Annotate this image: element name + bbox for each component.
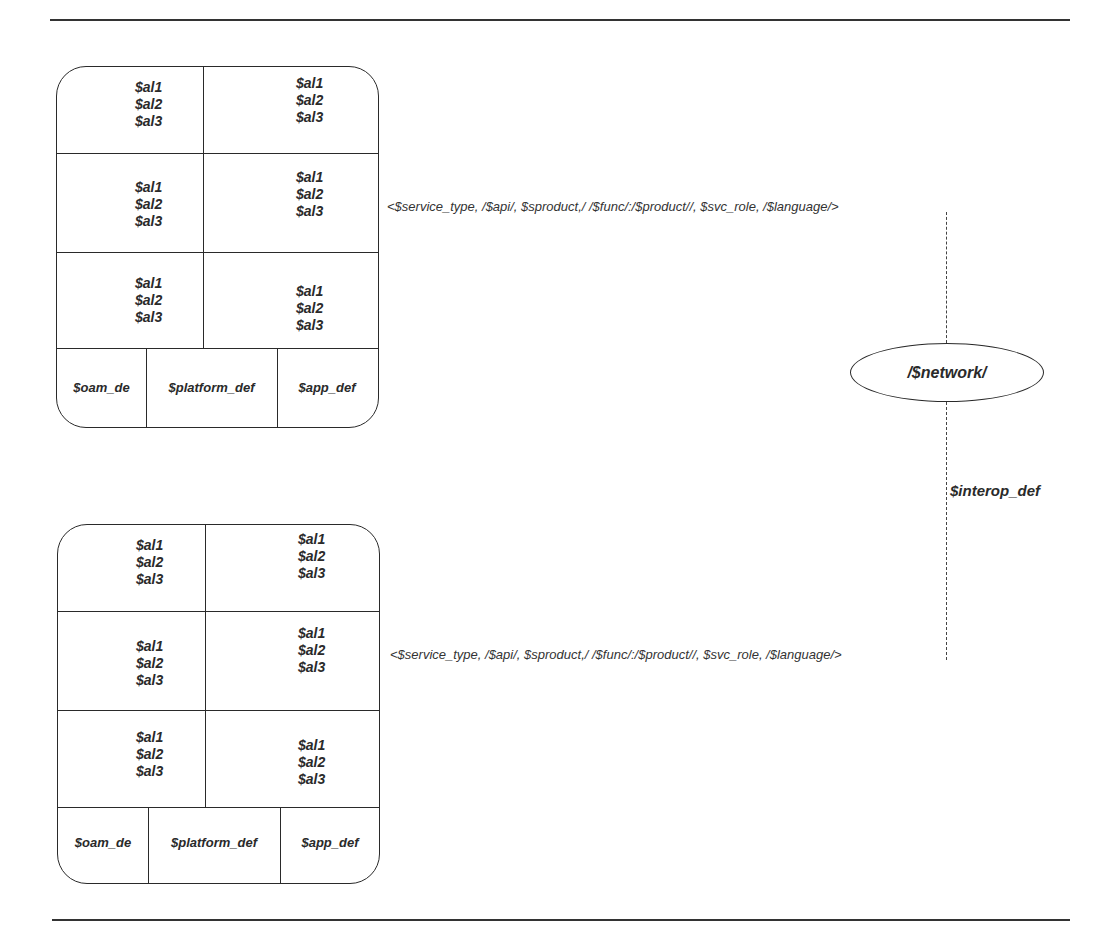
attribute-cell: $al1$al2$al3 xyxy=(136,537,163,588)
attribute-cell: $al1$al2$al3 xyxy=(296,283,323,334)
attribute-cell: $al1$al2$al3 xyxy=(135,79,162,130)
bottom-rule xyxy=(52,919,1070,921)
bottom-component-box: $al1$al2$al3 $al1$al2$al3 $al1$al2$al3 $… xyxy=(57,524,380,884)
attribute-cell: $al1$al2$al3 xyxy=(298,737,325,788)
attribute-cell: $al1$al2$al3 xyxy=(298,625,325,676)
network-label: /$network/ xyxy=(907,364,986,382)
app-def-label: $app_def xyxy=(280,835,380,850)
attribute-cell: $al1$al2$al3 xyxy=(298,531,325,582)
row-divider xyxy=(58,710,379,711)
attribute-cell: $al1$al2$al3 xyxy=(136,638,163,689)
app-def-label: $app_def xyxy=(277,380,377,395)
attribute-cell: $al1$al2$al3 xyxy=(135,275,162,326)
row-divider xyxy=(57,153,378,154)
bottom-service-tuple: <$service_type, /$api/, $sproduct,/ /$fu… xyxy=(390,647,842,662)
row-divider xyxy=(57,348,378,349)
top-connector-line xyxy=(946,212,947,343)
column-divider xyxy=(205,525,206,807)
platform-def-label: $platform_def xyxy=(146,380,277,395)
attribute-cell: $al1$al2$al3 xyxy=(136,729,163,780)
attribute-cell: $al1$al2$al3 xyxy=(296,75,323,126)
column-divider xyxy=(203,67,204,348)
top-service-tuple: <$service_type, /$api/, $sproduct,/ /$fu… xyxy=(387,199,839,214)
interop-def-label: $interop_def xyxy=(950,482,1040,499)
row-divider xyxy=(57,252,378,253)
top-rule xyxy=(50,19,1070,21)
row-divider xyxy=(58,807,379,808)
top-component-box: $al1$al2$al3 $al1$al2$al3 $al1$al2$al3 $… xyxy=(56,66,379,428)
platform-def-label: $platform_def xyxy=(148,835,280,850)
bottom-connector-line xyxy=(946,402,947,660)
network-node: /$network/ xyxy=(850,343,1044,402)
oam-def-label: $oam_de xyxy=(58,835,148,850)
attribute-cell: $al1$al2$al3 xyxy=(135,179,162,230)
row-divider xyxy=(58,611,379,612)
attribute-cell: $al1$al2$al3 xyxy=(296,169,323,220)
oam-def-label: $oam_de xyxy=(57,380,146,395)
